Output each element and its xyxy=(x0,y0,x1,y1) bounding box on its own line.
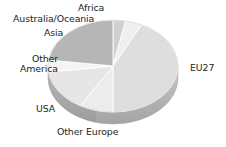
pie-label-other-america-line2: America xyxy=(0,64,58,74)
pie-label-eu27: EU27 xyxy=(190,63,214,73)
pie-label-usa: USA xyxy=(36,104,55,114)
pie-label-asia: Asia xyxy=(44,28,63,38)
pie-slices xyxy=(48,20,178,112)
pie-chart-figure: Africa Australia/Oceania Asia Other Amer… xyxy=(0,0,226,147)
pie-label-other-europe: Other Europe xyxy=(57,127,118,137)
pie-label-australia-oceania: Australia/Oceania xyxy=(13,14,94,24)
pie-label-africa: Africa xyxy=(78,3,104,13)
